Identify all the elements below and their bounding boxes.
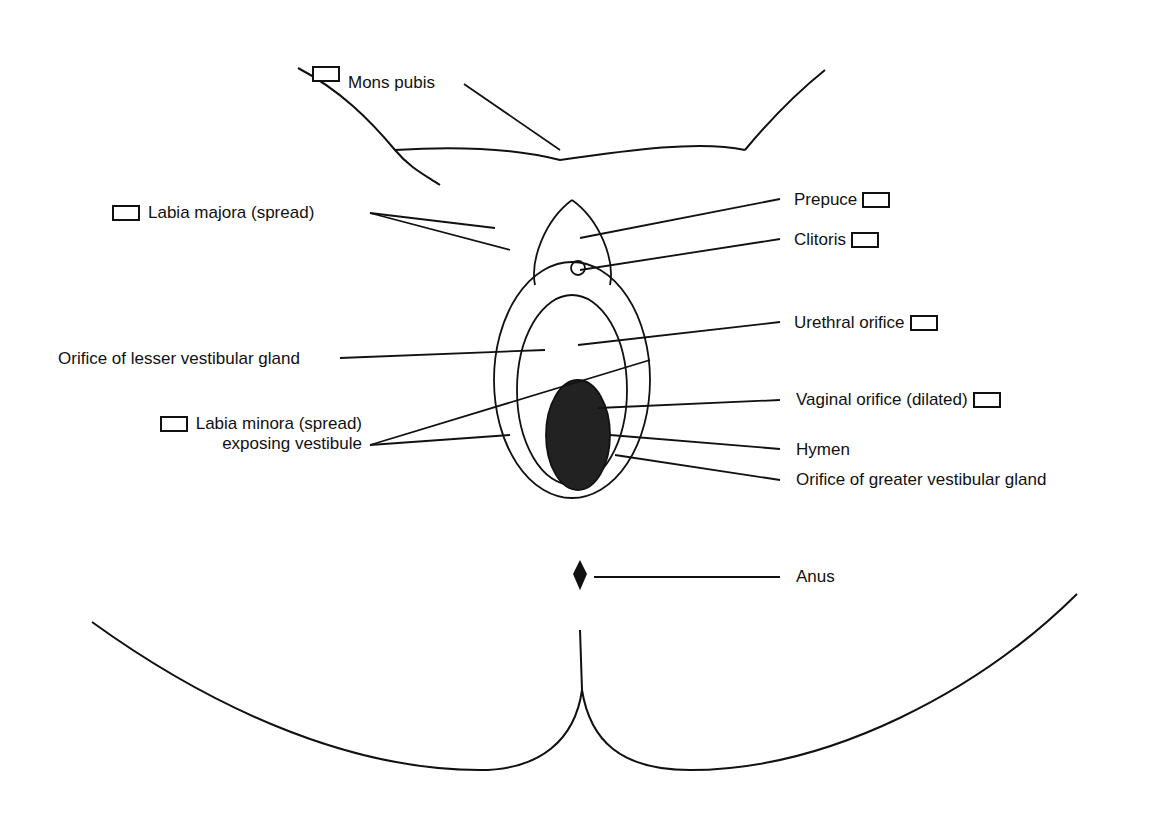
label-labia-majora: Labia majora (spread) — [112, 203, 314, 223]
checkbox-mons-pubis[interactable] — [312, 66, 340, 82]
checkbox-clitoris[interactable] — [851, 232, 879, 248]
label-labia-minora: Labia minora (spread) exposing vestibule — [112, 414, 362, 454]
checkbox-prepuce[interactable] — [862, 192, 890, 208]
checkbox-labia-majora[interactable] — [112, 205, 140, 221]
checkbox-urethral-orifice[interactable] — [910, 315, 938, 331]
label-lesser-vestibular-gland: Orifice of lesser vestibular gland — [58, 349, 300, 369]
label-clitoris: Clitoris — [794, 230, 879, 250]
label-anus: Anus — [796, 567, 835, 587]
label-urethral-orifice: Urethral orifice — [794, 313, 938, 333]
label-prepuce: Prepuce — [794, 190, 890, 210]
checkbox-vaginal-orifice[interactable] — [973, 392, 1001, 408]
label-greater-vestibular-gland: Orifice of greater vestibular gland — [796, 470, 1046, 490]
checkbox-labia-minora[interactable] — [160, 416, 188, 432]
label-mons-pubis: Mons pubis — [312, 66, 435, 93]
label-vaginal-orifice: Vaginal orifice (dilated) — [796, 390, 1001, 410]
label-hymen: Hymen — [796, 440, 850, 460]
